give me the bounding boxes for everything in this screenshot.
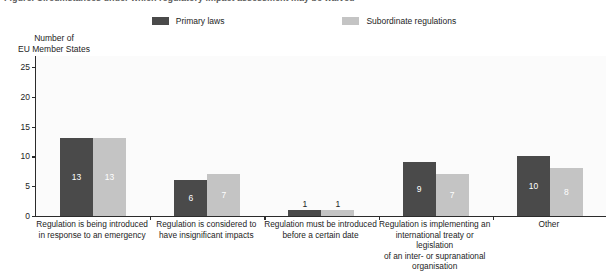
bar-pair: 108 [517,156,583,216]
legend-entry-primary-laws[interactable]: Primary laws [152,17,225,26]
legend-label-subordinate-regulations: Subordinate regulations [366,17,456,26]
x-axis-category-label: Regulation must be introducedbefore a ce… [263,219,377,240]
plot-wrapper: 0510152025 1313671197108 Regulation is b… [0,56,608,269]
bar-primary-laws[interactable]: 1 [288,210,321,216]
x-axis-category-label: Regulation is being introducedin respons… [35,219,149,240]
x-axis-category-label: Regulation is implementing aninternation… [378,219,492,272]
y-axis-tick-label: 0 [25,211,30,221]
bar-pair: 11 [288,210,354,216]
bar-subordinate-regulations[interactable]: 7 [207,174,240,216]
bar-group: 108 [493,56,607,216]
x-axis-category-label-line: have insignificant impacts [149,230,263,241]
y-axis-tick-mark [32,216,36,217]
y-axis-tick-label: 10 [21,151,30,161]
x-axis-category-label-line: Regulation is implementing an [378,219,492,230]
x-axis-labels: Regulation is being introducedin respons… [35,219,606,267]
bar-primary-laws[interactable]: 10 [517,156,550,216]
clipped-figure-title: Figure. Circumstances under which regula… [0,0,608,7]
bar-subordinate-regulations[interactable]: 1 [321,210,354,216]
x-axis-category-label: Other [492,219,606,230]
legend-entry-subordinate-regulations[interactable]: Subordinate regulations [342,17,456,26]
y-axis-title-line-1: Number of [2,33,106,44]
bar-subordinate-regulations[interactable]: 8 [550,168,583,216]
bar-subordinate-regulations[interactable]: 13 [93,138,126,216]
x-axis-category-label-line: before a certain date [263,230,377,241]
chart-legend: Primary laws Subordinate regulations [0,13,608,29]
bar-pair: 1313 [60,138,126,216]
x-axis-category-label-line: Regulation must be introduced [263,219,377,230]
bar-primary-laws[interactable]: 6 [174,180,207,216]
bar-value-label: 6 [174,193,207,203]
x-axis-category-label-line: organisation [378,261,492,272]
y-axis-title: Number of EU Member States [2,33,106,54]
bar-subordinate-regulations[interactable]: 7 [436,174,469,216]
bar-value-label: 1 [288,199,321,209]
y-axis-tick-label: 25 [21,62,30,72]
bar-value-label: 7 [436,190,469,200]
bar-value-label: 8 [550,187,583,197]
x-axis-category-label-line: Regulation is considered to [149,219,263,230]
x-axis-category-label: Regulation is considered tohave insignif… [149,219,263,240]
y-axis-title-line-2: EU Member States [2,44,106,55]
bar-group: 97 [379,56,493,216]
y-axis-tick-label: 15 [21,122,30,132]
plot-area: 0510152025 1313671197108 [35,56,606,217]
x-axis-category-label-line: international treaty or legislation [378,230,492,251]
bar-value-label: 10 [517,181,550,191]
legend-swatch-primary-laws [152,17,169,25]
x-axis-category-label-line: in response to an emergency [35,230,149,241]
legend-swatch-subordinate-regulations [342,17,359,25]
bar-primary-laws[interactable]: 13 [60,138,93,216]
bar-pair: 67 [174,174,240,216]
x-axis-category-label-line: Other [492,219,606,230]
x-axis-category-label-line: of an inter- or supranational [378,251,492,262]
bar-pair: 97 [403,162,469,216]
bar-group: 11 [264,56,378,216]
bar-primary-laws[interactable]: 9 [403,162,436,216]
bar-value-label: 13 [93,172,126,182]
bar-value-label: 7 [207,190,240,200]
bar-value-label: 9 [403,184,436,194]
x-axis-category-label-line: Regulation is being introduced [35,219,149,230]
legend-label-primary-laws: Primary laws [176,17,225,26]
bar-group: 67 [150,56,264,216]
bar-value-label: 13 [60,172,93,182]
y-axis-tick-label: 20 [21,92,30,102]
bar-group: 1313 [36,56,150,216]
y-axis-tick-label: 5 [25,181,30,191]
bar-value-label: 1 [321,199,354,209]
clipped-figure-title-text: Figure. Circumstances under which regula… [4,0,355,3]
